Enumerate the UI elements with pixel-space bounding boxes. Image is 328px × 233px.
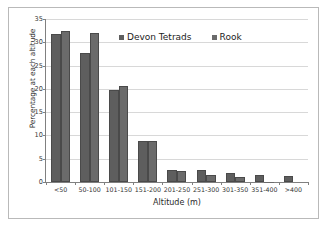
x-axis-title: Altitude (m) (46, 198, 308, 207)
chart-frame: Percentage at each altitude 051015202530… (8, 7, 319, 219)
bar-group (279, 19, 308, 182)
legend-swatch-icon (119, 35, 124, 40)
y-tick-label: 25 (35, 62, 43, 70)
x-tick-mark (279, 182, 280, 185)
bar-devon-tetrads (109, 90, 119, 182)
bar-rook (119, 86, 129, 182)
x-tick-mark (192, 182, 193, 185)
chart-legend: Devon TetradsRook (119, 32, 242, 42)
y-axis-title: Percentage at each altitude (28, 9, 37, 149)
x-tick-mark (75, 182, 76, 185)
bar-group (104, 19, 133, 182)
bar-devon-tetrads (51, 34, 61, 182)
legend-label: Rook (220, 32, 242, 42)
bar-group (221, 19, 250, 182)
bar-rook (206, 175, 216, 182)
x-tick-mark (250, 182, 251, 185)
y-tick-label: 10 (35, 131, 43, 139)
x-axis-tick-labels: <5050-100101-150151-200201-250251-300301… (46, 186, 308, 193)
bar-group (192, 19, 221, 182)
x-tick-label: >400 (279, 186, 308, 193)
bar-group (133, 19, 162, 182)
y-tick-label: 30 (35, 38, 43, 46)
x-tick-label: 151-200 (133, 186, 162, 193)
legend-label: Devon Tetrads (127, 32, 192, 42)
legend-entry: Devon Tetrads (119, 32, 192, 42)
y-tick-label: 15 (35, 108, 43, 116)
bar-rook (177, 171, 187, 182)
bar-rook (148, 141, 158, 182)
x-tick-label: 251-300 (192, 186, 221, 193)
bar-group (75, 19, 104, 182)
bar-group (162, 19, 191, 182)
x-tick-label: 101-150 (104, 186, 133, 193)
x-tick-mark (308, 182, 309, 185)
bar-devon-tetrads (197, 170, 207, 182)
x-tick-label: 201-250 (162, 186, 191, 193)
x-tick-mark (104, 182, 105, 185)
x-tick-mark (221, 182, 222, 185)
bar-rook (61, 31, 71, 182)
plot-area: 05101520253035 (46, 19, 308, 182)
bar-devon-tetrads (80, 53, 90, 182)
bar-group (46, 19, 75, 182)
legend-entry: Rook (212, 32, 242, 42)
x-tick-mark (46, 182, 47, 185)
x-tick-mark (133, 182, 134, 185)
y-tick-label: 20 (35, 85, 43, 93)
y-tick-label: 35 (35, 15, 43, 23)
bar-devon-tetrads (226, 173, 236, 182)
bar-devon-tetrads (255, 175, 265, 182)
chart-figure: Percentage at each altitude 051015202530… (0, 0, 328, 233)
bar-devon-tetrads (167, 170, 177, 182)
x-tick-label: <50 (46, 186, 75, 193)
x-tick-label: 351-400 (250, 186, 279, 193)
legend-swatch-icon (212, 35, 217, 40)
bar-devon-tetrads (138, 141, 148, 182)
bar-series-container (46, 19, 308, 182)
x-tick-label: 50-100 (75, 186, 104, 193)
bar-rook (90, 33, 100, 182)
x-tick-label: 301-350 (221, 186, 250, 193)
x-tick-mark (162, 182, 163, 185)
bar-group (250, 19, 279, 182)
